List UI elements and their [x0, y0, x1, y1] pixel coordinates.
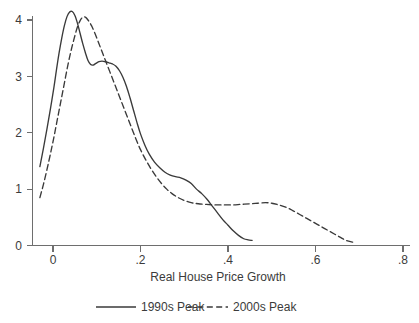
chart-legend: 1990s Peak2000s Peak: [96, 300, 297, 314]
x-tick-label: .6: [310, 253, 320, 267]
y-tick-group: 01234: [15, 13, 32, 253]
legend-label-1[interactable]: 1990s Peak: [141, 300, 205, 314]
x-axis-title: Real House Price Growth: [150, 270, 285, 284]
x-tick-label: .4: [223, 253, 233, 267]
y-axis: 01234: [15, 13, 32, 253]
chart-figure: 01234 0.2.4.6.8 Real House Price Growth …: [0, 0, 419, 323]
x-tick-label: .8: [398, 253, 408, 267]
x-axis: 0.2.4.6.8: [33, 246, 411, 268]
x-tick-label: .2: [135, 253, 145, 267]
kernel-density-plot: 01234 0.2.4.6.8 Real House Price Growth …: [0, 0, 419, 323]
x-tick-label: 0: [50, 253, 57, 267]
x-tick-group: 0.2.4.6.8: [50, 246, 409, 268]
series-group: [40, 11, 353, 242]
y-tick-label: 1: [15, 182, 22, 196]
y-tick-label: 4: [15, 13, 22, 27]
legend-label-2[interactable]: 2000s Peak: [233, 300, 297, 314]
series-line-2000s-peak: [40, 17, 353, 242]
y-tick-label: 3: [15, 70, 22, 84]
y-tick-label: 0: [15, 239, 22, 253]
y-tick-label: 2: [15, 126, 22, 140]
